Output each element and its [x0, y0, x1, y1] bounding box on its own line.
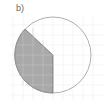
circle-diagram	[0, 0, 104, 101]
shaded-sector	[15, 29, 53, 93]
